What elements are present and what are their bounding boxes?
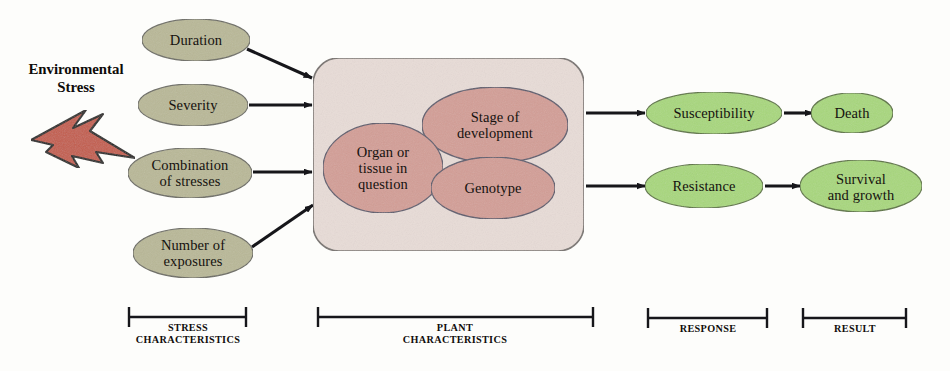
bracket-result-label: RESULT [810, 323, 900, 335]
arrow-duration-to-plant [247, 49, 312, 78]
arrow-exposures-to-plant [252, 205, 313, 247]
plant-ellipse-genotype [431, 157, 555, 219]
stress-ellipse-number-of-exposures [133, 228, 253, 278]
bracket-stress-characteristics-label: STRESS CHARACTERISTICS [113, 322, 263, 347]
plant-ellipse-stage-of-development [422, 87, 568, 163]
stress-ellipse-combination-of-stresses [128, 148, 252, 198]
bracket-response-label: RESPONSE [657, 323, 759, 335]
stress-response-flow-diagram: Environmental Stress Duration Severity C… [0, 0, 950, 371]
result-ellipse-survival-and-growth [800, 160, 922, 212]
stress-ellipse-duration [142, 19, 250, 61]
bracket-plant-characteristics-label: PLANT CHARACTERISTICS [380, 322, 530, 347]
response-ellipse-susceptibility [646, 92, 782, 134]
response-ellipse-resistance [645, 164, 763, 208]
result-ellipse-death [811, 93, 893, 133]
lightning-bolt-icon [31, 110, 135, 168]
environmental-stress-title: Environmental Stress [6, 60, 146, 97]
diagram-canvas [0, 0, 950, 371]
stress-ellipse-severity [138, 84, 248, 126]
plant-ellipse-organ-or-tissue-in-question [323, 123, 443, 213]
